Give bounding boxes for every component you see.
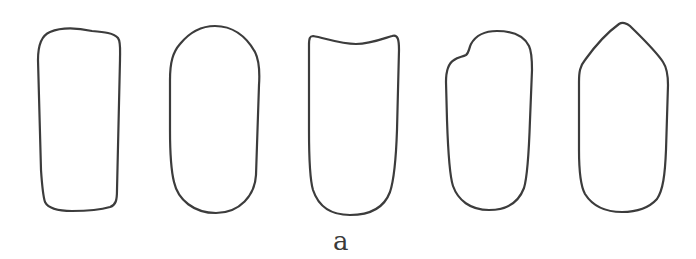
shape-4-notched-top: [446, 31, 532, 210]
shape-1-rounded-rectangle: [38, 29, 120, 212]
figure-caption-label: a: [333, 228, 349, 254]
shape-3-concave-top: [309, 36, 399, 215]
shape-2-oval-capsule: [170, 26, 259, 213]
shape-5-pointed-top: [579, 23, 668, 212]
shapes-drawing: [0, 0, 696, 259]
figure-canvas: a: [0, 0, 696, 259]
